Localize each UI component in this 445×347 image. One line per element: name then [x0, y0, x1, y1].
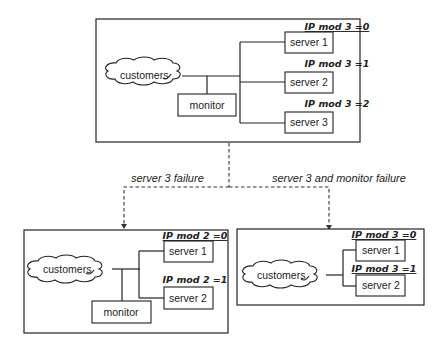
bl-server-2-label: server 2	[169, 292, 207, 304]
br-server-1-rule: IP mod 3 =0	[352, 229, 417, 240]
transition-left-label: server 3 failure	[131, 172, 204, 184]
top-monitor: monitor	[178, 94, 236, 116]
server-1-rule: IP mod 3 =0	[305, 21, 370, 32]
server-2-rule: IP mod 3 =1	[305, 58, 370, 69]
bl-customers-cloud: customers	[28, 255, 103, 283]
br-customers-cloud: customers	[243, 260, 318, 288]
bl-server-1-rule: IP mod 2 =0	[163, 230, 228, 241]
monitor-label: monitor	[189, 99, 225, 111]
bl-customers-label: customers	[43, 263, 91, 275]
transition-left-line	[124, 187, 229, 226]
top-panel: customers monitor IP mod 3 =0 server 1 I…	[96, 19, 370, 142]
bottom-right-panel: customers IP mod 3 =0 server 1 IP mod 3 …	[237, 229, 424, 305]
bl-server-1-label: server 1	[169, 245, 207, 257]
customers-cloud: customers	[106, 57, 181, 85]
customers-label: customers	[120, 69, 168, 81]
br-customers-label: customers	[257, 269, 305, 281]
bottom-left-panel: customers monitor IP mod 2 =0 server 1 I…	[24, 230, 228, 333]
transition-right-line	[229, 187, 329, 227]
bl-server-2-rule: IP mod 2 =1	[163, 274, 228, 285]
transition-right-label: server 3 and monitor failure	[272, 172, 406, 184]
bl-monitor: monitor	[92, 301, 151, 323]
br-server-1-label: server 1	[362, 244, 400, 256]
transition-left-arrowhead	[121, 224, 127, 229]
server-3-rule: IP mod 3 =2	[305, 98, 370, 109]
bl-monitor-label: monitor	[103, 306, 139, 318]
failover-diagram: customers monitor IP mod 3 =0 server 1 I…	[0, 0, 445, 347]
server-2-label: server 2	[290, 76, 328, 88]
server-1-label: server 1	[290, 36, 328, 48]
server-3-label: server 3	[290, 116, 328, 128]
transitions: server 3 failure server 3 and monitor fa…	[121, 143, 406, 230]
br-server-2-rule: IP mod 3 =1	[352, 263, 417, 274]
br-server-2-label: server 2	[362, 279, 400, 291]
